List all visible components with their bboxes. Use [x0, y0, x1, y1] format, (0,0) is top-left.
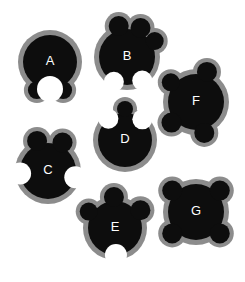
notch-d-0 [98, 109, 118, 129]
shape-label-d: D [120, 131, 129, 146]
body-lobe-f-0 [162, 73, 180, 91]
body-lobe-g-1 [210, 181, 230, 201]
notch-c-1 [64, 166, 86, 188]
body-lobe-e-1 [104, 187, 124, 207]
body-lobe-b-0 [109, 16, 129, 36]
molecule-shape-figure: ABCDEFG [0, 0, 245, 282]
body-lobe-g-2 [162, 223, 182, 243]
shape-label-c: C [43, 162, 52, 177]
shape-label-a: A [46, 53, 55, 68]
notch-a-0 [37, 76, 63, 102]
body-lobe-g-0 [162, 181, 182, 201]
shape-label-b: B [123, 48, 132, 63]
shape-label-g: G [191, 203, 201, 218]
body-lobe-e-0 [80, 203, 98, 221]
body-lobe-b-2 [146, 32, 164, 50]
notch-d-1 [132, 109, 152, 129]
shape-notches-a [37, 76, 63, 102]
body-lobe-b-1 [131, 18, 151, 38]
shape-label-e: E [111, 219, 120, 234]
body-lobe-f-3 [194, 123, 214, 143]
body-lobe-f-1 [197, 62, 217, 82]
notch-c-0 [9, 162, 31, 184]
shape-label-f: F [192, 93, 200, 108]
shape-notches-e [105, 244, 127, 266]
body-lobe-d-0 [117, 101, 133, 117]
notch-b-0 [132, 70, 152, 90]
notch-b-1 [104, 72, 124, 92]
body-lobe-c-0 [27, 131, 47, 151]
body-lobe-c-1 [53, 132, 73, 152]
body-lobe-g-3 [210, 223, 230, 243]
notch-e-0 [105, 244, 127, 266]
body-lobe-f-2 [161, 113, 181, 133]
body-lobe-e-2 [130, 200, 150, 220]
